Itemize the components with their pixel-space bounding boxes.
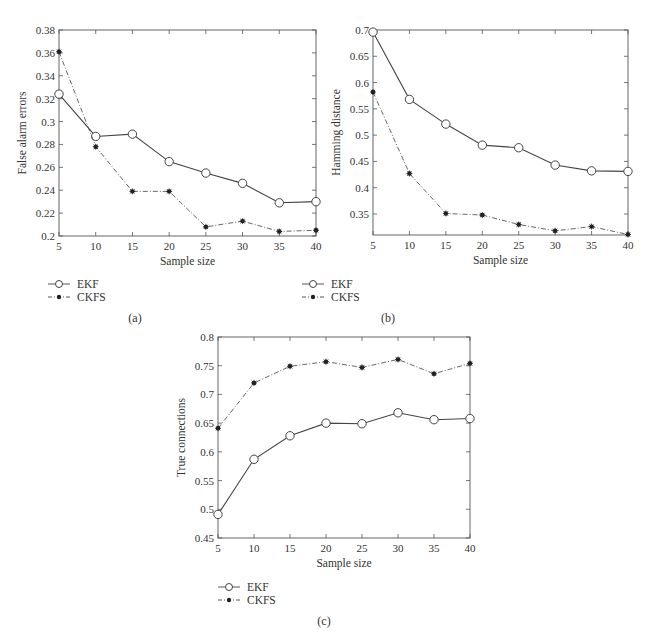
- legend-star-icon: [57, 295, 61, 299]
- y-tick-label: 0.65: [350, 50, 370, 62]
- circle-marker: [55, 90, 63, 98]
- y-tick-label: 0.6: [355, 77, 369, 89]
- y-tick-label: 0.5: [355, 129, 369, 141]
- x-tick-label: 25: [513, 239, 525, 251]
- star-marker-rays: [443, 210, 449, 216]
- circle-marker: [551, 161, 559, 169]
- x-tick-label: 40: [465, 542, 477, 554]
- legend: EKFCKFS: [218, 581, 276, 606]
- star-marker-rays: [313, 227, 319, 233]
- star-marker-rays: [625, 231, 631, 237]
- chart-panel-a: 5101520253035400.20.220.240.260.280.30.3…: [16, 24, 322, 325]
- star-marker-rays: [251, 380, 257, 386]
- circle-marker: [238, 179, 246, 187]
- star-marker-rays: [395, 356, 401, 362]
- star-marker-rays: [240, 218, 246, 224]
- circle-marker: [466, 414, 474, 422]
- star-marker-rays: [479, 212, 485, 218]
- x-tick-label: 25: [200, 240, 212, 252]
- x-tick-label: 20: [477, 239, 489, 251]
- x-tick-label: 35: [429, 542, 441, 554]
- panel-caption: (b): [381, 311, 395, 325]
- star-marker-rays: [406, 171, 412, 177]
- x-tick-label: 5: [370, 239, 376, 251]
- y-axis-label: False alarm errors: [16, 91, 28, 175]
- legend-circle-icon: [56, 281, 63, 288]
- legend-star-icon: [311, 295, 315, 299]
- y-tick-label: 0.38: [36, 24, 56, 36]
- legend: EKFCKFS: [302, 278, 360, 303]
- legend-label: CKFS: [77, 291, 106, 303]
- x-tick-label: 40: [311, 240, 323, 252]
- circle-marker: [250, 455, 258, 463]
- star-marker-rays: [370, 89, 376, 95]
- star-marker-rays: [552, 228, 558, 234]
- x-tick-label: 10: [249, 542, 261, 554]
- circle-marker: [369, 28, 377, 36]
- circle-marker: [214, 510, 222, 518]
- y-tick-label: 0.28: [36, 138, 56, 150]
- legend-label: CKFS: [331, 291, 360, 303]
- circle-marker: [405, 95, 413, 103]
- y-tick-label: 0.3: [41, 116, 55, 128]
- y-tick-label: 0.26: [36, 161, 56, 173]
- panel-caption: (a): [128, 311, 141, 325]
- y-tick-label: 0.75: [195, 360, 215, 372]
- circle-marker: [275, 199, 283, 207]
- x-tick-label: 20: [164, 240, 176, 252]
- x-tick-label: 35: [274, 240, 286, 252]
- y-tick-label: 0.8: [200, 331, 214, 343]
- x-tick-label: 15: [440, 239, 452, 251]
- star-marker-rays: [166, 188, 172, 194]
- star-marker-rays: [203, 224, 209, 230]
- x-tick-label: 30: [237, 240, 249, 252]
- y-tick-label: 0.6: [200, 446, 214, 458]
- star-marker-rays: [323, 359, 329, 365]
- star-marker-rays: [431, 371, 437, 377]
- star-marker-rays: [359, 364, 365, 370]
- legend: EKFCKFS: [48, 278, 106, 303]
- circle-marker: [442, 120, 450, 128]
- legend-circle-icon: [226, 584, 233, 591]
- y-tick-label: 0.24: [36, 184, 56, 196]
- y-tick-label: 0.2: [41, 230, 55, 242]
- y-tick-label: 0.35: [350, 208, 370, 220]
- circle-marker: [358, 420, 366, 428]
- circle-marker: [478, 141, 486, 149]
- y-tick-label: 0.45: [195, 532, 215, 544]
- x-tick-label: 5: [215, 542, 221, 554]
- x-tick-label: 25: [357, 542, 369, 554]
- x-tick-label: 40: [623, 239, 635, 251]
- x-tick-label: 30: [550, 239, 562, 251]
- star-marker-rays: [56, 49, 62, 55]
- star-marker-rays: [589, 224, 595, 230]
- y-tick-label: 0.34: [36, 70, 56, 82]
- x-axis-label: Sample size: [316, 557, 371, 570]
- circle-marker: [286, 432, 294, 440]
- circle-marker: [322, 419, 330, 427]
- y-tick-label: 0.4: [355, 182, 369, 194]
- x-tick-label: 35: [586, 239, 598, 251]
- star-marker-rays: [287, 363, 293, 369]
- y-tick-label: 0.7: [200, 388, 214, 400]
- legend-star-icon: [227, 598, 231, 602]
- panel-caption: (c): [317, 614, 330, 628]
- y-axis-label: Hamming distance: [330, 89, 343, 176]
- x-tick-label: 30: [393, 542, 405, 554]
- chart-panel-b: 5101520253035400.350.40.450.50.550.60.65…: [302, 24, 634, 325]
- star-marker-rays: [276, 228, 282, 234]
- y-tick-label: 0.32: [36, 93, 55, 105]
- y-tick-label: 0.7: [355, 24, 369, 36]
- x-tick-label: 20: [321, 542, 333, 554]
- star-marker-rays: [215, 425, 221, 431]
- plot-area-frame: [373, 30, 628, 235]
- y-tick-label: 0.65: [195, 417, 215, 429]
- star-marker-rays: [516, 221, 522, 227]
- circle-marker: [394, 409, 402, 417]
- legend-label: EKF: [331, 278, 353, 290]
- legend-label: EKF: [247, 581, 269, 593]
- star-marker-rays: [129, 188, 135, 194]
- legend-circle-icon: [310, 281, 317, 288]
- figure-panels: 5101520253035400.20.220.240.260.280.30.3…: [0, 0, 650, 640]
- plot-area-frame: [218, 337, 470, 538]
